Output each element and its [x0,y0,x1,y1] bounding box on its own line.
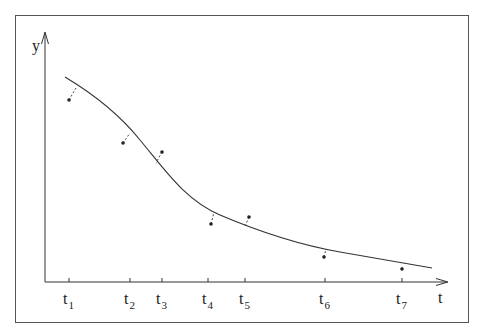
data-point [209,222,213,226]
data-point [400,267,404,271]
tick-label-t3: t3 [156,291,167,307]
x-axis [45,279,448,286]
tick-label-t7: t7 [396,291,407,307]
data-point [121,141,125,145]
tick-label-t4: t4 [202,291,213,307]
residual-line [211,212,214,224]
data-point [322,255,326,259]
tick-label-t2: t2 [124,291,135,307]
fitted-curve [65,77,432,268]
residual-line [69,88,76,100]
tick-label-t5: t5 [239,291,250,307]
x-axis-label: t [438,290,442,306]
residual-line [123,133,130,143]
data-point [247,215,251,219]
frame [16,16,469,323]
data-point [160,150,164,154]
x-ticks [69,278,402,282]
diagram-canvas [0,0,479,335]
y-axis-label: y [32,38,40,54]
tick-label-t1: t1 [63,291,74,307]
data-point [67,98,71,102]
y-axis [42,32,49,282]
tick-label-t6: t6 [319,291,330,307]
